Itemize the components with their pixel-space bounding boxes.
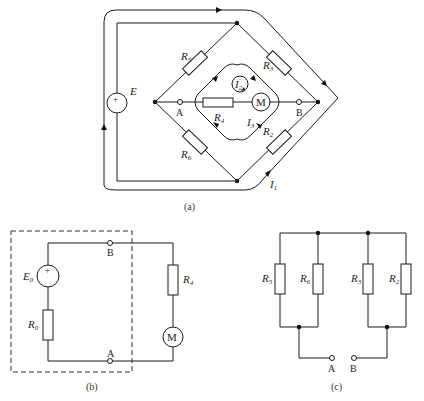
label-r5: R5 — [180, 50, 192, 64]
wire — [368, 294, 406, 327]
label-i1: I1 — [269, 178, 277, 192]
label-a: A — [328, 363, 336, 374]
figure-c: R5 R6 R3 R2 A B (c) — [261, 231, 411, 393]
label-b: B — [107, 247, 114, 258]
label-i2: I2 — [234, 78, 243, 92]
node — [297, 325, 301, 329]
terminal-b — [352, 356, 357, 361]
wire — [48, 340, 108, 361]
wire — [356, 327, 387, 358]
wire — [280, 294, 318, 327]
label-b: B — [296, 107, 303, 118]
arrow-icon — [101, 124, 107, 130]
label-e0: E0 — [22, 270, 34, 284]
resistor-r5 — [275, 264, 285, 294]
label-r0: R0 — [27, 318, 39, 332]
label-r4: R4 — [213, 111, 225, 125]
node — [235, 21, 239, 25]
label-r6: R6 — [299, 272, 311, 286]
node — [385, 325, 389, 329]
label-e: E — [129, 85, 137, 97]
caption-b: (b) — [86, 381, 98, 393]
resistor-r3 — [363, 264, 373, 294]
node — [153, 100, 157, 104]
resistor-r4 — [203, 98, 233, 107]
label-m: M — [256, 96, 266, 108]
node — [366, 231, 370, 235]
node — [316, 231, 320, 235]
label-i3: I3 — [246, 116, 255, 130]
circuit-figure: + E R5 R3 R6 R2 I2 R4 M — [0, 0, 424, 401]
terminal-b — [297, 100, 302, 105]
wire — [112, 347, 173, 361]
caption-c: (c) — [331, 381, 342, 393]
terminal-b — [108, 241, 113, 246]
node — [316, 100, 320, 104]
figure-b: + E0 R0 R4 M B A (b) — [11, 231, 194, 393]
wire — [299, 327, 330, 358]
terminal-a — [178, 100, 183, 105]
figure-a: + E R5 R3 R6 R2 I2 R4 M — [101, 7, 338, 213]
resistor-r0 — [43, 310, 53, 340]
resistor-r2 — [401, 264, 411, 294]
node — [235, 179, 239, 183]
label-r6: R6 — [180, 148, 192, 162]
terminal-a — [330, 356, 335, 361]
label-a: A — [107, 348, 115, 359]
label-r5: R5 — [261, 272, 273, 286]
label-r4: R4 — [182, 273, 194, 287]
caption-a: (a) — [184, 201, 195, 213]
label-a: A — [176, 107, 184, 118]
arrow-icon — [250, 75, 256, 81]
wire — [48, 243, 108, 268]
label-m: M — [167, 331, 177, 343]
label-r2: R2 — [388, 272, 400, 286]
polarity-plus: + — [113, 94, 118, 104]
arrow-icon — [256, 123, 262, 129]
label-r2: R2 — [262, 125, 274, 139]
arrow-icon — [216, 7, 222, 13]
label-r3: R3 — [350, 272, 362, 286]
resistor-r4 — [168, 265, 178, 295]
terminal-a — [108, 359, 113, 364]
wire — [117, 23, 237, 93]
polarity-plus: + — [45, 265, 50, 275]
resistor-r6 — [313, 264, 323, 294]
wire — [112, 243, 173, 265]
label-b: B — [350, 363, 357, 374]
